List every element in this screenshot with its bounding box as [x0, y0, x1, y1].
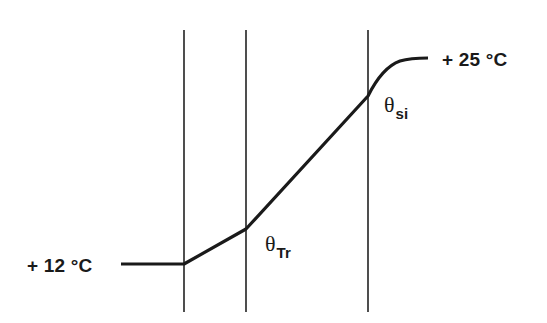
theta-si-label: θsi — [384, 94, 408, 116]
theta-tr-subscript: Tr — [277, 244, 291, 261]
inside-temperature-label: + 25 °C — [442, 50, 508, 69]
theta-si-subscript: si — [396, 105, 409, 122]
theta-si-symbol: θ — [384, 92, 395, 117]
theta-tr-label: θTr — [265, 233, 291, 255]
theta-tr-symbol: θ — [265, 231, 276, 256]
outside-temperature-label: + 12 °C — [27, 256, 93, 275]
